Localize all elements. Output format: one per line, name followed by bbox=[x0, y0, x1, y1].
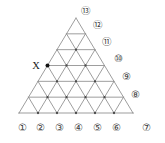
lattice-vertex-dot bbox=[113, 112, 115, 114]
label-13: ⑬ bbox=[81, 7, 91, 17]
label-7: ⑦ bbox=[142, 124, 151, 134]
lattice-vertex-dot bbox=[75, 49, 77, 51]
lattice-vertex-dot bbox=[56, 112, 58, 114]
lattice-vertex-dot bbox=[103, 96, 105, 98]
lattice-vertex-dot bbox=[94, 112, 96, 114]
lattice-vertex-dot bbox=[37, 112, 39, 114]
label-8: ⑧ bbox=[131, 91, 140, 101]
lattice-vertex-dot bbox=[46, 96, 48, 98]
label-1: ① bbox=[18, 124, 27, 134]
label-9: ⑨ bbox=[122, 73, 131, 83]
label-12: ⑫ bbox=[93, 21, 103, 31]
lattice-vertex-dot bbox=[84, 64, 86, 66]
lattice-svg bbox=[0, 0, 165, 143]
point-x-marker bbox=[46, 64, 50, 68]
lattice-line bbox=[114, 97, 124, 113]
label-2: ② bbox=[36, 124, 45, 134]
label-4: ④ bbox=[74, 124, 83, 134]
lattice-vertex-dot bbox=[84, 96, 86, 98]
label-3: ③ bbox=[55, 124, 64, 134]
label-5: ⑤ bbox=[93, 124, 102, 134]
lattice-vertex-dot bbox=[56, 80, 58, 82]
lattice-line bbox=[38, 34, 86, 113]
lattice-vertex-dot bbox=[75, 112, 77, 114]
lattice-vertex-dot bbox=[94, 80, 96, 82]
lattice-line bbox=[29, 97, 39, 113]
label-11: ⑪ bbox=[102, 38, 112, 48]
lattice-vertex-dot bbox=[65, 96, 67, 98]
point-x-label: X bbox=[32, 61, 40, 72]
triangular-lattice-figure: ①②③④⑤⑥⑦⑧⑨⑩⑪⑫⑬ X bbox=[0, 0, 165, 143]
label-10: ⑩ bbox=[114, 55, 123, 65]
lattice-vertex-dot bbox=[75, 80, 77, 82]
lattice-vertex-dot bbox=[65, 64, 67, 66]
label-6: ⑥ bbox=[112, 124, 121, 134]
